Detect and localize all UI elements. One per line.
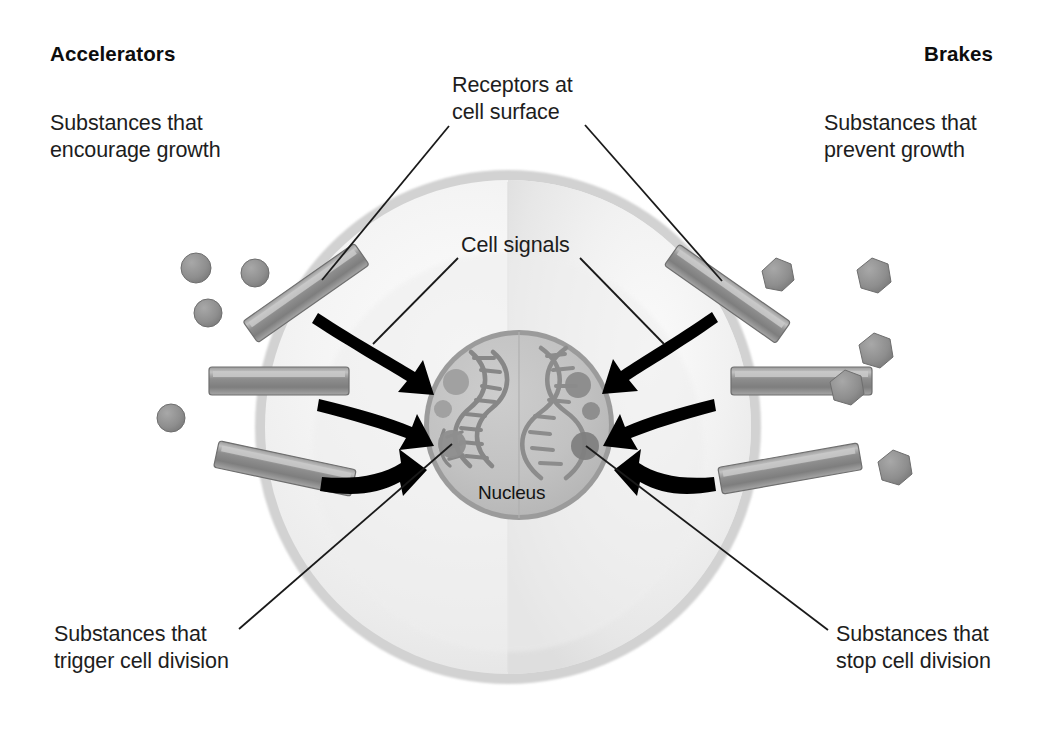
label-cell-signals: Cell signals <box>461 232 570 259</box>
nucleus-granule-r2 <box>582 402 600 420</box>
particle-left-2 <box>194 299 222 327</box>
nucleus-granule-l1 <box>443 369 469 395</box>
particle-left-3 <box>157 404 185 432</box>
label-accelerators-description: Substances that encourage growth <box>50 110 221 164</box>
heading-accelerators: Accelerators <box>50 42 175 66</box>
heading-brakes: Brakes <box>924 42 993 66</box>
particle-right-4 <box>878 450 912 485</box>
label-nucleus: Nucleus <box>478 482 545 504</box>
bound-particle-right-1 <box>762 258 794 291</box>
label-brakes-description: Substances that prevent growth <box>824 110 977 164</box>
nucleus-granule-r1 <box>565 372 591 398</box>
label-receptors-at-cell-surface: Receptors at cell surface <box>452 72 573 126</box>
label-substances-stop-cell-division: Substances that stop cell division <box>836 621 991 675</box>
particle-right-1 <box>857 258 891 293</box>
free-particles-left <box>157 253 222 432</box>
nucleus-granule-r3 <box>571 432 599 460</box>
nucleus-granule-l2 <box>434 400 452 418</box>
particle-right-2 <box>859 333 893 368</box>
bound-particle-left-1 <box>241 259 269 287</box>
label-substances-trigger-cell-division: Substances that trigger cell division <box>54 621 229 675</box>
diagram-canvas: Accelerators Brakes Substances that enco… <box>0 0 1043 731</box>
particle-left-1 <box>181 253 211 283</box>
receptor-left-2-highlight <box>213 371 345 377</box>
